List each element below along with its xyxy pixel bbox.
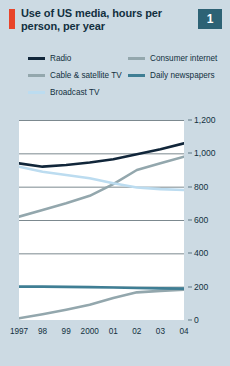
x-tick-label: 04	[179, 327, 188, 336]
x-tick-label: 99	[62, 327, 71, 336]
x-tick-label: 2000	[81, 327, 99, 336]
x-tick-label: 03	[156, 327, 165, 336]
legend-item: Cable & satellite TV	[28, 71, 122, 80]
chart-card: Use of US media, hours per person, per y…	[0, 0, 230, 366]
legend-swatch-icon	[28, 57, 45, 60]
y-axis-labels: 02004006008001,0001,200	[188, 120, 230, 320]
y-tick-label: 800	[194, 182, 208, 192]
x-tick-label: 01	[109, 327, 118, 336]
legend-label: Consumer internet	[150, 54, 217, 63]
legend-swatch-icon	[28, 91, 45, 94]
y-tick-mark	[188, 286, 192, 287]
y-tick-label: 1,000	[194, 148, 216, 158]
y-tick-mark	[188, 186, 192, 187]
legend-label: Cable & satellite TV	[50, 71, 122, 80]
page-title: Use of US media, hours per person, per y…	[21, 7, 179, 33]
series-line	[19, 290, 184, 319]
chart-legend: RadioCable & satellite TVBroadcast TVCon…	[0, 52, 230, 107]
legend-swatch-icon	[128, 57, 145, 60]
series-line	[19, 167, 184, 190]
legend-item: Consumer internet	[128, 54, 217, 63]
y-tick-mark	[188, 320, 192, 321]
y-tick-label: 0	[194, 315, 199, 325]
legend-item: Radio	[28, 54, 71, 63]
y-tick-label: 400	[194, 248, 208, 258]
legend-label: Daily newspapers	[150, 71, 215, 80]
y-tick-label: 600	[194, 215, 208, 225]
x-tick-label: 02	[132, 327, 141, 336]
y-tick-mark	[188, 253, 192, 254]
x-tick-label: 1997	[10, 327, 28, 336]
y-tick-label: 1,200	[194, 115, 216, 125]
plot-area	[19, 120, 184, 320]
figure-number-badge: 1	[198, 9, 222, 29]
x-axis-labels: 19979899200001020304	[19, 325, 184, 339]
accent-bar	[9, 9, 15, 29]
y-tick-mark	[188, 153, 192, 154]
chart-lines	[19, 120, 184, 320]
legend-label: Radio	[50, 54, 71, 63]
x-tick-label: 98	[38, 327, 47, 336]
y-tick-mark	[188, 120, 192, 121]
legend-swatch-icon	[128, 74, 145, 77]
legend-swatch-icon	[28, 74, 45, 77]
legend-item: Broadcast TV	[28, 88, 99, 97]
legend-item: Daily newspapers	[128, 71, 215, 80]
y-tick-label: 200	[194, 282, 208, 292]
y-tick-mark	[188, 220, 192, 221]
legend-label: Broadcast TV	[50, 88, 99, 97]
